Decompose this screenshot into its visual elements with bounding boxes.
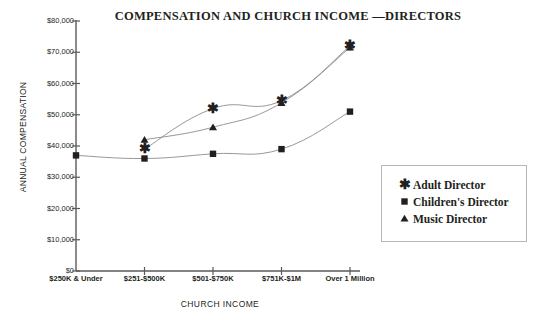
data-point-marker [210,151,216,157]
series-2 [73,108,353,161]
series-3 [141,44,355,143]
legend-marker-glyph: ✱ [399,178,411,191]
series-line [145,48,351,140]
star-marker-icon: ✱ [398,178,411,191]
chart-figure: COMPENSATION AND CHURCH INCOME —DIRECTOR… [0,0,540,325]
legend-item[interactable]: Music Director [398,210,528,227]
legend-item[interactable]: Children's Director [398,193,528,210]
data-point-marker [347,108,353,114]
plot-area: ✱✱✱✱ [0,0,540,325]
legend-item-label: Children's Director [411,196,509,208]
series-line [145,46,351,149]
legend-item-label: Music Director [411,213,487,225]
legend-marker-glyph [401,198,407,204]
square-marker-icon [398,195,411,208]
legend-marker-glyph [401,215,409,222]
legend-item-label: Adult Director [411,179,485,191]
data-point-marker [73,152,79,158]
series-1: ✱✱✱✱ [139,38,357,156]
data-point-marker [278,146,284,152]
data-point-marker: ✱ [207,101,219,116]
triangle-marker-icon [398,212,411,225]
legend-item[interactable]: ✱Adult Director [398,176,528,193]
data-point-marker [141,155,147,161]
legend: ✱Adult DirectorChildren's DirectorMusic … [398,176,528,227]
data-point-marker: ✱ [139,141,151,156]
